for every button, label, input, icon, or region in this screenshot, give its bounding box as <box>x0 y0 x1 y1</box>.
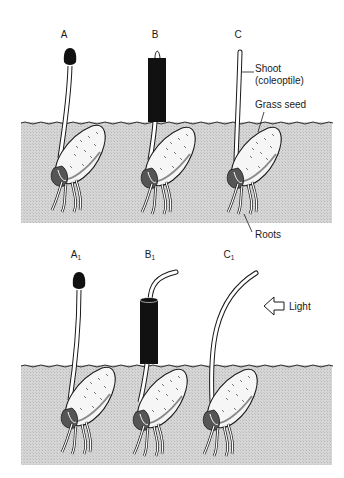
opaque-sleeve <box>140 300 158 364</box>
light-label: Light <box>289 301 311 312</box>
opaque-sleeve <box>148 58 166 122</box>
seed-label: Grass seed <box>255 99 306 110</box>
opaque-tip-cap <box>73 272 85 289</box>
label-b: B <box>152 29 159 40</box>
coleoptile-label: (coleoptile) <box>255 75 304 86</box>
label-a: A <box>61 29 68 40</box>
phototropism-diagram: A B C Shoot (coleoptile) Grass seed <box>0 0 344 478</box>
top-panel: A B C Shoot (coleoptile) Grass seed <box>21 29 333 240</box>
arrow-left-icon <box>264 297 284 315</box>
label-c1: C1 <box>224 249 235 261</box>
light-indicator: Light <box>264 297 311 315</box>
shoot-label: Shoot <box>255 63 281 74</box>
label-a1: A1 <box>71 249 82 261</box>
opaque-tip-cap <box>64 48 76 65</box>
roots-label: Roots <box>255 229 281 240</box>
label-c: C <box>234 29 241 40</box>
label-b1: B1 <box>145 249 156 261</box>
bottom-panel: A1 B1 C1 Light <box>21 249 333 465</box>
